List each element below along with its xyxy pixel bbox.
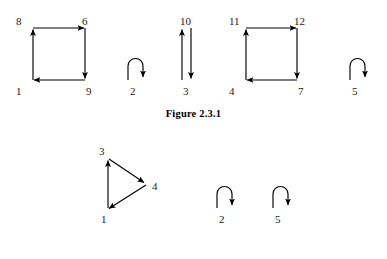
edge-3-to-4	[109, 159, 144, 183]
figure-2-3-2-canvas	[0, 130, 387, 225]
figure-2-3-1-caption: Figure 2.3.1	[0, 108, 387, 119]
node-label-6: 6	[82, 16, 88, 27]
node-label-3: 3	[183, 86, 189, 97]
node-label-2: 2	[130, 86, 136, 97]
node-label-5: 5	[275, 214, 281, 225]
node-label-4: 4	[229, 86, 235, 97]
edge-4-to-1	[109, 185, 146, 209]
node-label-8: 8	[16, 16, 22, 27]
node-label-1: 1	[16, 86, 22, 97]
triangle-edges	[108, 159, 146, 209]
square-right-edges	[246, 28, 297, 80]
node-label-11: 11	[229, 16, 240, 27]
node-label-5: 5	[352, 86, 358, 97]
node-label-7: 7	[298, 86, 304, 97]
node-label-10: 10	[180, 16, 191, 27]
node-label-12: 12	[294, 16, 305, 27]
loop-5-edge	[350, 59, 365, 81]
node-label-4: 4	[152, 181, 158, 192]
node-label-3: 3	[99, 146, 105, 157]
figure-2-3-1-block: 8 6 1 9 2 10 3 11 12 4 7 5 Figure 2.3.1	[0, 0, 387, 130]
node-label-1: 1	[101, 214, 107, 225]
node-label-9: 9	[86, 86, 92, 97]
loop-2-edge-fig2	[217, 187, 232, 209]
loop-5-edge-fig2	[273, 187, 288, 209]
figure-2-3-2-block: 3 4 1 2 5 Figure 2.3.2	[0, 130, 387, 259]
square-left-edges	[33, 28, 85, 80]
figure-2-3-1-canvas	[0, 0, 387, 100]
loop-2-edge	[128, 59, 143, 81]
node-label-2: 2	[219, 214, 225, 225]
pair-3-10-edges	[182, 28, 191, 80]
